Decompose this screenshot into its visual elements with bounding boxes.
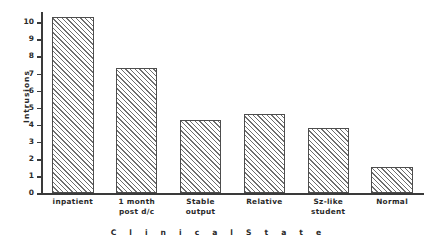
x-tick-label: Stableoutput xyxy=(167,197,234,216)
bar xyxy=(180,120,221,194)
y-tick-label: 4 xyxy=(29,121,34,129)
x-tick-label-line: post d/c xyxy=(103,207,170,217)
y-tick-label: 7 xyxy=(29,70,34,78)
x-tick-label-line: Relative xyxy=(231,197,298,207)
x-tick-label-line: student xyxy=(295,207,362,217)
x-axis-tick-labels: inpatient1 monthpost d/cStableoutputRela… xyxy=(41,197,424,225)
y-tick-label: 5 xyxy=(29,104,34,112)
x-tick-label: Normal xyxy=(359,197,426,207)
y-tick-label: 2 xyxy=(29,155,34,163)
y-tick-label: 0 xyxy=(29,190,34,198)
bar xyxy=(244,114,285,194)
x-axis-title: C l i n i c a l S t a t e xyxy=(0,228,437,237)
y-tick-label: 9 xyxy=(29,36,34,44)
x-tick-label: 1 monthpost d/c xyxy=(103,197,170,216)
x-tick-label-line: Stable xyxy=(167,197,234,207)
x-tick-label-line: output xyxy=(167,207,234,217)
y-tick-label: 1 xyxy=(29,173,34,181)
bar-series xyxy=(41,12,424,193)
x-tick-label-line: inpatient xyxy=(39,197,106,207)
x-tick-label: Relative xyxy=(231,197,298,207)
bar xyxy=(116,68,157,193)
y-axis-title: Intrusions xyxy=(22,49,31,145)
x-tick-label: inpatient xyxy=(39,197,106,207)
y-tick-label: 10 xyxy=(24,19,34,27)
bar-chart-figure: Intrusions 012345678910 inpatient1 month… xyxy=(0,0,437,249)
bar xyxy=(52,17,93,193)
bar xyxy=(308,128,349,194)
bar xyxy=(371,167,412,194)
y-tick-label: 3 xyxy=(29,138,34,146)
y-tick-label: 6 xyxy=(29,87,34,95)
y-tick-label: 8 xyxy=(29,53,34,61)
x-tick-label: Sz-likestudent xyxy=(295,197,362,216)
x-tick-label-line: 1 month xyxy=(103,197,170,207)
plot-area: 012345678910 xyxy=(41,12,424,195)
x-axis-line xyxy=(41,193,424,195)
x-tick-label-line: Normal xyxy=(359,197,426,207)
y-tick-mark xyxy=(37,193,42,194)
x-tick-label-line: Sz-like xyxy=(295,197,362,207)
